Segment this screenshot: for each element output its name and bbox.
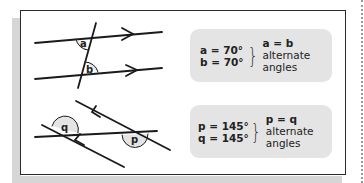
value-q: q = 145° (198, 132, 249, 144)
parallel-line-2 (35, 68, 162, 79)
arrow-icon (122, 28, 133, 40)
value-a: a = 70° (200, 44, 244, 56)
brace-icon: } (248, 45, 258, 67)
conclusion-line-1: alternate (263, 49, 311, 61)
top-diagram (35, 23, 162, 88)
parallel-line-1 (35, 32, 162, 43)
angle-label-q: q (61, 122, 68, 133)
angle-values: p = 145° q = 145° (198, 120, 249, 144)
conclusion-line-2: angles (266, 137, 314, 149)
value-b: b = 70° (200, 56, 244, 68)
angle-label-a: a (80, 38, 87, 49)
conclusion-line-2: angles (263, 61, 311, 73)
angle-values: a = 70° b = 70° (200, 44, 244, 68)
conclusion-equation: p = q (266, 113, 314, 125)
parallel-transversal-2 (42, 125, 124, 167)
value-p: p = 145° (198, 120, 249, 132)
conclusion: a = b alternate angles (263, 37, 311, 73)
bottom-diagram (35, 101, 170, 167)
angle-label-p: p (131, 134, 138, 145)
transversal-line (78, 23, 96, 88)
conclusion-equation: a = b (263, 37, 311, 49)
note-box-bottom: p = 145° q = 145° } p = q alternate angl… (190, 105, 332, 158)
parallel-transversal-1 (76, 101, 170, 150)
angle-label-b: b (86, 64, 93, 75)
conclusion-line-1: alternate (266, 125, 314, 137)
note-box-top: a = 70° b = 70° } a = b alternate angles (190, 29, 332, 82)
conclusion: p = q alternate angles (266, 113, 314, 149)
brace-icon: } (251, 121, 261, 143)
